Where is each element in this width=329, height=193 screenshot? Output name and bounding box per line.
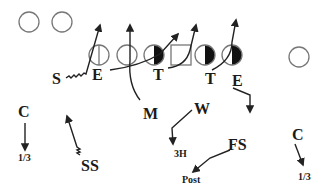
offense-guard-right-icon [195,45,215,65]
assignment-w: 3H [174,148,187,159]
play-diagram: S E T T E M W C SS FS C 1/3 3H Post 1/3 [0,0,329,193]
label-c-right: C [292,126,304,143]
offense-back-1-icon [19,12,39,32]
offense-back-2-icon [52,12,72,32]
offense-guard-left-icon [144,45,164,65]
label-e-left: E [92,66,103,83]
ss-path [67,116,80,155]
label-e-right: E [232,72,243,89]
label-ss: SS [81,157,99,174]
offense-tackle-icon [117,45,137,65]
label-t-left: T [153,66,164,83]
assignment-fs: Post [182,174,201,185]
offense-receiver-icon [289,47,309,67]
label-fs: FS [228,136,247,153]
label-m: M [143,105,158,122]
label-c-left: C [18,103,30,120]
c-right-path [295,144,303,165]
w-path [172,110,192,144]
t-left-path [168,25,196,68]
label-s: S [52,70,61,87]
m-path [130,25,140,100]
assignment-c-left: 1/3 [18,152,31,163]
assignment-c-right: 1/3 [298,171,311,182]
label-t-right: T [205,70,216,87]
label-w: W [194,100,210,117]
fs-path [193,150,230,172]
e-right-path [233,88,250,112]
